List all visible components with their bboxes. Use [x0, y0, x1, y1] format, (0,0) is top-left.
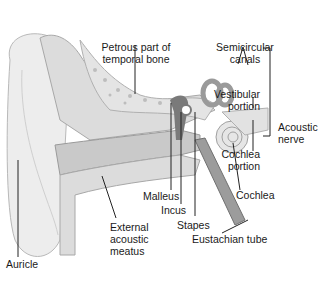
label-semicircular-canals: Semicircular canals: [216, 41, 274, 65]
label-auricle: Auricle: [6, 258, 38, 270]
label-eustachian-tube: Eustachian tube: [192, 233, 267, 245]
label-cochlea: Cochlea: [236, 189, 275, 201]
label-petrous-bone: Petrous part of temporal bone: [100, 41, 172, 65]
label-stapes: Stapes: [177, 219, 210, 231]
label-malleus: Malleus: [143, 190, 179, 202]
label-vestibular-portion: Vestibular portion: [206, 88, 260, 112]
label-acoustic-nerve: Acoustic nerve: [278, 121, 318, 145]
label-cochlea-portion: Cochlea portion: [218, 148, 260, 172]
label-incus: Incus: [161, 204, 186, 216]
label-external-acoustic-meatus: External acoustic meatus: [110, 221, 149, 257]
